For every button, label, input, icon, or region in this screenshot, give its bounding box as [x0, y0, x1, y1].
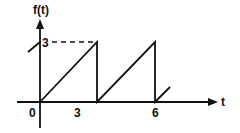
- x-tick-3: 3: [74, 106, 81, 120]
- t-axis-arrow-icon: [208, 98, 218, 106]
- x-axis-label: t: [221, 95, 225, 109]
- x-tick-0: 0: [29, 106, 36, 120]
- f-axis-arrow-icon: [36, 19, 44, 29]
- sawtooth-diagram: f(t) t 3 0 3 6: [0, 0, 240, 133]
- x-tick-6: 6: [152, 106, 159, 120]
- sawtooth-waveform: [40, 42, 170, 102]
- y-tick-3: 3: [42, 36, 49, 50]
- y-axis-label: f(t): [33, 3, 49, 17]
- previous-period-stub: [28, 42, 40, 52]
